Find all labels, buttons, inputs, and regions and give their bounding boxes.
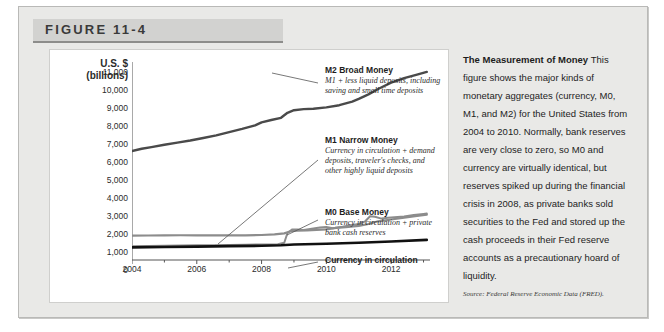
y-tick-label: 5,000 [82,175,128,185]
y-tick-label: 9,000 [82,103,128,113]
y-tick-label: 11,000 [82,67,128,77]
callout-m0: M0 Base Money Currency in circulation + … [325,207,443,238]
callout-m2-title: M2 Broad Money [325,65,443,76]
y-tick-label: 10,000 [82,85,128,95]
figure-container: FIGURE 11-4 U.S. $ (billions) 01,0002,00… [18,6,648,318]
figure-header-bar: FIGURE 11-4 [33,19,283,43]
callout-m0-desc: Currency in circulation + private bank c… [325,218,443,238]
callout-currency-title: Currency in circulation [325,255,443,266]
callout-m0-title: M0 Base Money [325,207,443,218]
y-tick-label: 2,000 [82,229,128,239]
callout-m1: M1 Narrow Money Currency in circulation … [325,135,443,176]
y-tick-label: 1,000 [82,247,128,257]
y-tick-label: 4,000 [82,193,128,203]
y-tick-label: 8,000 [82,121,128,131]
caption-body: This figure shows the major kinds of mon… [463,54,627,281]
figure-caption: The Measurement of Money This figure sho… [463,49,631,299]
y-tick-label: 6,000 [82,157,128,167]
figure-label: FIGURE 11-4 [45,22,147,37]
callout-m1-title: M1 Narrow Money [325,135,443,146]
callout-currency: Currency in circulation [325,255,443,266]
y-axis-tick-labels: 01,0002,0003,0004,0005,0006,0007,0008,00… [80,60,128,260]
caption-text-block: The Measurement of Money This figure sho… [463,49,631,283]
callout-m1-desc: Currency in circulation + demand deposit… [325,146,443,176]
y-tick-label: 7,000 [82,139,128,149]
caption-source: Source: Federal Reserve Economic Data (F… [463,290,631,299]
caption-heading: The Measurement of Money [463,54,591,65]
y-tick-label: 3,000 [82,211,128,221]
y-tick-label: 0 [82,265,128,275]
callout-m2-desc: M1 + less liquid deposits, including sav… [325,76,443,96]
callout-m2: M2 Broad Money M1 + less liquid deposits… [325,65,443,96]
